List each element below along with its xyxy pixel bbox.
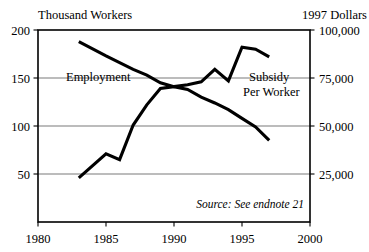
y2-tick-label: 25,000 — [319, 168, 353, 182]
right-axis-title: 1997 Dollars — [302, 8, 367, 22]
x-tick-label: 2000 — [298, 232, 323, 246]
x-tick-label: 1990 — [162, 232, 187, 246]
y2-tick-label: 75,000 — [319, 72, 353, 86]
chart-figure: Thousand Workers 1997 Dollars 1980198519… — [0, 0, 369, 252]
y2-tick-label: 50,000 — [319, 120, 353, 134]
source-note: Source: See endnote 21 — [196, 198, 304, 210]
y2-tick-label: 100,000 — [319, 24, 360, 38]
y-tick-label: 150 — [11, 72, 30, 86]
y-tick-label: 100 — [11, 120, 30, 134]
x-tick-label: 1985 — [94, 232, 119, 246]
left-axis-title: Thousand Workers — [38, 8, 132, 22]
y-tick-label: 50 — [18, 168, 31, 182]
x-tick-label: 1980 — [26, 232, 51, 246]
series-label-subsidy-per-worker: Per Worker — [243, 85, 301, 99]
line-chart: Thousand Workers 1997 Dollars 1980198519… — [0, 0, 369, 252]
series-label-subsidy: Subsidy — [249, 70, 290, 84]
y-tick-label: 200 — [11, 24, 30, 38]
x-tick-label: 1995 — [230, 232, 255, 246]
series-label-employment: Employment — [66, 70, 131, 84]
